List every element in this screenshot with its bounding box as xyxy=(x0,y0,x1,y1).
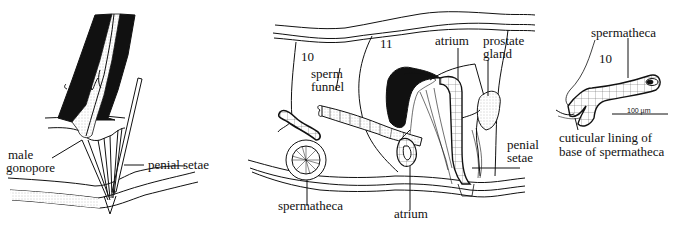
label-cuticular-lining-line1: cuticular lining of xyxy=(559,131,652,144)
label-spermatheca-right: spermatheca xyxy=(591,26,656,39)
left-panel-penis-drawing xyxy=(8,14,198,214)
drawing-canvas xyxy=(0,0,678,226)
right-panel-spermatheca-detail xyxy=(556,38,668,130)
label-atrium-top: atrium xyxy=(435,34,469,47)
label-spermatheca-middle: spermatheca xyxy=(278,199,343,212)
label-atrium-bottom: atrium xyxy=(394,207,428,220)
label-cuticular-lining-line2: base of spermatheca xyxy=(559,145,664,158)
label-segment-11: 11 xyxy=(380,37,393,50)
anatomy-figure: male gonopore penial setae 10 11 sperm f… xyxy=(0,0,678,226)
label-prostate-gland-line2: gland xyxy=(483,47,512,60)
label-segment-10-right: 10 xyxy=(599,52,612,65)
label-penial-setae-left: penial setae xyxy=(148,158,209,171)
label-segment-10: 10 xyxy=(301,50,314,63)
label-sperm-funnel-line2: funnel xyxy=(311,80,344,93)
label-scale-bar: 100 µm xyxy=(627,107,651,114)
label-male-gonopore-line2: gonopore xyxy=(6,161,55,174)
label-penial-setae-middle-line2: setae xyxy=(507,151,533,164)
